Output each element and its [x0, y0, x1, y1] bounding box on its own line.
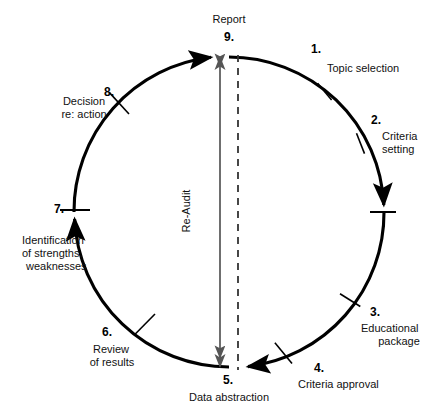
step-5-label: Data abstraction: [174, 391, 284, 404]
step-1-label: Topic selection: [327, 62, 439, 75]
step-4-number: 4.: [314, 361, 324, 375]
step-2-label-line1: Criteria: [382, 130, 442, 143]
re-audit-label: Re-Audit: [180, 176, 192, 246]
step-9-label: Report: [189, 13, 269, 26]
cycle-arc-top-right: [229, 57, 384, 205]
step-7-label-line1: Identification: [22, 234, 114, 247]
step-6-label-line2: of results: [76, 356, 148, 369]
step-8-label-line2: re: action: [51, 108, 117, 121]
audit-cycle-diagram: Report 9. 1. Topic selection 2. Criteria…: [0, 0, 442, 420]
step-7-number: 7.: [54, 202, 64, 216]
tick-step-6: [134, 314, 155, 335]
step-7-label-line3: weaknesses: [26, 260, 118, 273]
step-6-label-line1: Review: [80, 343, 142, 356]
step-1-number: 1.: [311, 42, 321, 56]
step-9-number: 9.: [199, 30, 259, 44]
step-5-number: 5.: [208, 373, 248, 387]
step-2-label-line2: setting: [382, 143, 442, 156]
step-3-label-line1: Educational: [361, 322, 442, 335]
step-3-number: 3.: [370, 305, 380, 319]
tick-step-1: [318, 83, 332, 100]
step-2-number: 2.: [371, 113, 381, 127]
step-8-label-line1: Decision: [51, 95, 117, 108]
step-4-label: Criteria approval: [298, 378, 418, 391]
step-3-label-line2: package: [361, 335, 437, 348]
step-7-label-line2: of strengths,: [22, 247, 114, 260]
step-6-number: 6.: [102, 325, 112, 339]
